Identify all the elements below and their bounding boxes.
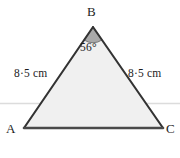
vertex-label-a: A (6, 122, 16, 135)
angle-measure-label-b: 56° (80, 42, 97, 54)
vertex-label-b: B (87, 5, 96, 18)
side-length-label-ab: 8·5 cm (14, 68, 47, 80)
vertex-label-c: C (166, 122, 175, 135)
side-length-label-bc: 8·5 cm (128, 68, 161, 80)
geometry-figure: B A C 8·5 cm 8·5 cm 56° (0, 0, 180, 158)
